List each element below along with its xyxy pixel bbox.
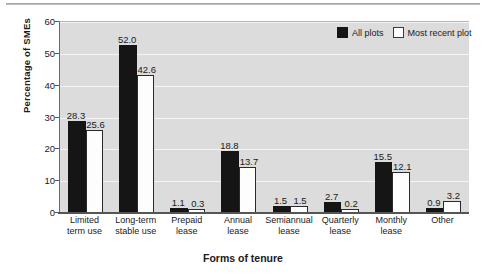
bar-most-recent-plot[interactable]: 13.7 [239,167,257,213]
bar-value-label: 0.9 [427,197,440,208]
plot-area: 28.325.652.042.61.10.318.813.71.51.52.70… [59,21,469,213]
y-axis-tick-mark [55,117,59,118]
y-axis-tick-label: 50 [21,47,55,58]
y-axis-tick-label: 0 [21,207,55,218]
bar-value-label: 1.5 [293,195,306,206]
bar-value-label: 28.3 [67,110,86,121]
y-axis-tick-mark [55,21,59,22]
bar-value-label: 18.8 [220,140,239,151]
bar-value-label: 52.0 [118,34,137,45]
bar-all-plots[interactable]: 15.5 [375,162,393,213]
bar-value-label: 1.5 [274,195,287,206]
bar-group: 1.10.3 [162,22,213,213]
bar-all-plots[interactable]: 18.8 [221,151,239,213]
bar-most-recent-plot[interactable]: 12.1 [392,172,410,213]
bar-value-label: 15.5 [374,151,393,162]
bar-value-label: 25.6 [86,119,105,130]
bar-all-plots[interactable]: 52.0 [119,45,137,213]
y-axis-tick-mark [55,180,59,181]
bar-value-label: 12.1 [393,161,412,172]
y-axis-tick-mark [55,212,59,213]
y-axis-tick-label: 10 [21,175,55,186]
y-axis-tick-label: 40 [21,79,55,90]
bar-value-label: 0.2 [345,198,358,209]
x-axis-tick-label: Other [411,215,474,226]
legend-label: Most recent plot [408,28,472,38]
bar-value-label: 1.1 [172,197,185,208]
y-axis-tick-mark [55,53,59,54]
x-axis-tick-label-line: Other [411,215,474,226]
y-axis-tick-mark [55,148,59,149]
bar-chart-figure: Percentage of SMEs 28.325.652.042.61.10.… [0,0,486,280]
bar-group: 28.325.6 [60,22,111,213]
legend-swatch-icon [393,27,404,38]
legend-item[interactable]: All plots [337,27,384,38]
y-axis-tick-label: 60 [21,16,55,27]
bar-most-recent-plot[interactable]: 25.6 [86,130,104,213]
x-axis-line [58,212,469,214]
y-axis-tick-mark [55,85,59,86]
x-axis-tick-label-line: lease [360,226,423,237]
bar-all-plots[interactable]: 28.3 [68,121,86,213]
bar-group: 1.51.5 [265,22,316,213]
bar-group: 18.813.7 [213,22,264,213]
chart-legend: All plotsMost recent plot [337,27,472,38]
y-axis-tick-label: 20 [21,143,55,154]
bar-value-label: 3.2 [447,190,460,201]
bar-value-label: 2.7 [325,191,338,202]
legend-label: All plots [352,28,384,38]
bar-most-recent-plot[interactable]: 42.6 [137,75,155,213]
y-axis-tick-label: 30 [21,111,55,122]
bar-value-label: 0.3 [191,198,204,209]
bar-group: 0.93.2 [418,22,469,213]
x-axis-title: Forms of tenure [0,252,486,264]
bar-value-label: 13.7 [240,156,259,167]
legend-item[interactable]: Most recent plot [393,27,472,38]
bar-group: 2.70.2 [316,22,367,213]
legend-swatch-icon [337,27,348,38]
bar-group: 52.042.6 [111,22,162,213]
bar-value-label: 42.6 [137,64,156,75]
bar-group: 15.512.1 [367,22,418,213]
